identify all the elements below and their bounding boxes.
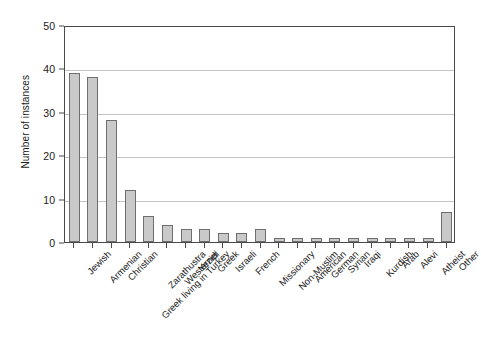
bar (311, 238, 322, 242)
x-tick-mark (390, 243, 391, 248)
bar (143, 216, 154, 242)
bar (69, 73, 80, 242)
bar (348, 238, 359, 242)
plot-area (64, 26, 455, 243)
bar (87, 77, 98, 242)
x-tick-mark (371, 243, 372, 248)
x-tick-label: Alevi (418, 249, 440, 271)
x-tick-mark (92, 243, 93, 248)
bar (423, 238, 434, 242)
y-tick-label: 20 (43, 150, 55, 162)
bar (199, 229, 210, 242)
x-tick-mark (334, 243, 335, 248)
x-tick-mark (297, 243, 298, 248)
bar (441, 212, 452, 242)
x-tick-mark (315, 243, 316, 248)
x-tick-mark (166, 243, 167, 248)
bars-layer (65, 27, 454, 242)
bar (274, 238, 285, 242)
y-axis-ticks: 01020304050 (0, 0, 64, 337)
x-tick-mark (129, 243, 130, 248)
x-tick-mark (278, 243, 279, 248)
y-tick-label: 30 (43, 107, 55, 119)
bar (329, 238, 340, 242)
y-tick-label: 50 (43, 20, 55, 32)
x-tick-mark (260, 243, 261, 248)
x-tick-label: Jewish (86, 249, 114, 277)
x-tick-mark (408, 243, 409, 248)
y-tick-label: 0 (49, 237, 55, 249)
y-tick-label: 10 (43, 194, 55, 206)
bar (404, 238, 415, 242)
y-axis-title: Number of instances (14, 0, 36, 243)
bar (292, 238, 303, 242)
bar (385, 238, 396, 242)
x-tick-mark (148, 243, 149, 248)
x-tick-mark (204, 243, 205, 248)
bar (367, 238, 378, 242)
x-axis-labels: JewishArmenianChristianGreek living in T… (64, 249, 464, 337)
x-tick-mark (353, 243, 354, 248)
x-tick-mark (241, 243, 242, 248)
bar (125, 190, 136, 242)
x-tick-label: French (254, 249, 282, 277)
y-axis-title-text: Number of instances (20, 75, 31, 169)
bar (218, 233, 229, 242)
bar (162, 225, 173, 242)
x-tick-mark (185, 243, 186, 248)
x-tick-mark (446, 243, 447, 248)
bar (181, 229, 192, 242)
bar (236, 233, 247, 242)
x-tick-mark (427, 243, 428, 248)
bar (106, 120, 117, 242)
y-tick-label: 40 (43, 63, 55, 75)
x-tick-mark (111, 243, 112, 248)
bar (255, 229, 266, 242)
x-tick-mark (73, 243, 74, 248)
